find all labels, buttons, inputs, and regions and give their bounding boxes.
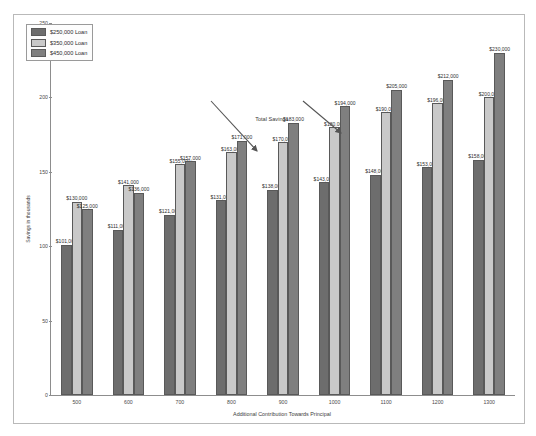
bar[interactable]: $153,000 <box>422 167 433 395</box>
y-tick: 200 <box>39 94 48 100</box>
legend-label: $450,000 Loan <box>50 50 87 56</box>
x-tick: 1200 <box>432 399 444 405</box>
bar[interactable]: $163,000 <box>226 152 237 395</box>
bar-value-label: $125,000 <box>77 203 98 209</box>
chart-frame: Total Savings in Mortgage By adding Extr… <box>13 14 525 424</box>
bar[interactable]: $183,000 <box>288 123 299 395</box>
bar[interactable]: $130,000 <box>72 202 83 395</box>
bar-group: $131,000$163,000$171,000 <box>216 141 248 395</box>
x-tick: 700 <box>176 399 185 405</box>
legend-swatch-icon <box>31 39 46 47</box>
bar[interactable]: $194,000 <box>340 106 351 395</box>
bar-group: $138,000$170,000$183,000 <box>267 123 299 395</box>
bar-group: $143,000$180,000$194,000 <box>319 106 351 395</box>
bar-value-label: $171,000 <box>232 134 253 140</box>
bar-group: $153,000$196,000$212,000 <box>422 80 454 395</box>
x-tick: 600 <box>124 399 133 405</box>
x-axis-label: Additional Contribution Towards Principa… <box>50 411 514 417</box>
bar-value-label: $194,000 <box>335 100 356 106</box>
y-tick: 150 <box>39 169 48 175</box>
bar[interactable]: $190,000 <box>381 112 392 395</box>
bar[interactable]: $111,000 <box>113 230 124 395</box>
bar[interactable]: $125,000 <box>82 209 93 395</box>
bar[interactable]: $180,000 <box>329 127 340 395</box>
legend-label: $350,000 Loan <box>50 40 87 46</box>
bar-group: $158,000$200,000$230,000 <box>473 53 505 395</box>
y-axis-label: Savings in thousands <box>25 195 31 243</box>
chart-page: Total Savings in Mortgage By adding Extr… <box>0 0 536 436</box>
bar[interactable]: $158,000 <box>473 160 484 395</box>
bar-group: $111,000$141,000$136,000 <box>113 185 145 395</box>
y-tick: 50 <box>42 318 48 324</box>
bar-value-label: $130,000 <box>66 195 87 201</box>
plot-area: 050100150200250 500600700800900100011001… <box>50 23 515 396</box>
bar[interactable]: $170,000 <box>278 142 289 395</box>
bar-value-label: $230,000 <box>489 46 510 52</box>
bar[interactable]: $141,000 <box>123 185 134 395</box>
bar-value-label: $136,000 <box>128 186 149 192</box>
x-tick: 800 <box>227 399 236 405</box>
bar[interactable]: $121,000 <box>164 215 175 395</box>
bar-value-label: $157,000 <box>180 155 201 161</box>
bar[interactable]: $101,000 <box>61 245 72 395</box>
bar[interactable]: $136,000 <box>134 193 145 395</box>
x-tick: 1000 <box>329 399 341 405</box>
bar[interactable]: $155,000 <box>175 164 186 395</box>
bar[interactable]: $157,000 <box>185 161 196 395</box>
legend-swatch-icon <box>31 49 46 57</box>
legend-item[interactable]: $450,000 Loan <box>31 49 87 57</box>
bar-group: $121,000$155,000$157,000 <box>164 161 196 395</box>
bar-value-label: $141,000 <box>118 179 139 185</box>
y-tick: 0 <box>45 392 48 398</box>
x-tick: 900 <box>279 399 288 405</box>
bar-value-label: $205,000 <box>386 83 407 89</box>
x-tick: 1300 <box>483 399 495 405</box>
bar[interactable]: $131,000 <box>216 200 227 395</box>
x-tick: 1100 <box>381 399 392 405</box>
y-tick: 100 <box>39 243 48 249</box>
legend-label: $250,000 Loan <box>50 29 87 35</box>
x-tick: 500 <box>72 399 81 405</box>
bar[interactable]: $143,000 <box>319 182 330 395</box>
bar-value-label: $212,000 <box>438 73 459 79</box>
bar[interactable]: $148,000 <box>370 175 381 395</box>
bar-group: $101,000$130,000$125,000 <box>61 202 93 395</box>
bar[interactable]: $205,000 <box>391 90 402 395</box>
legend-item[interactable]: $350,000 Loan <box>31 39 87 47</box>
bar[interactable]: $196,000 <box>432 103 443 395</box>
bar[interactable]: $171,000 <box>237 141 248 395</box>
bar[interactable]: $230,000 <box>494 53 505 395</box>
chart-legend: $250,000 Loan $350,000 Loan $450,000 Loa… <box>26 24 93 61</box>
bar[interactable]: $200,000 <box>484 97 495 395</box>
legend-swatch-icon <box>31 28 46 36</box>
annotation-total-savings: Total Savings <box>255 116 288 122</box>
bar[interactable]: $212,000 <box>443 80 454 395</box>
bar[interactable]: $138,000 <box>267 190 278 395</box>
legend-item[interactable]: $250,000 Loan <box>31 28 87 36</box>
bar-group: $148,000$190,000$205,000 <box>370 90 402 395</box>
